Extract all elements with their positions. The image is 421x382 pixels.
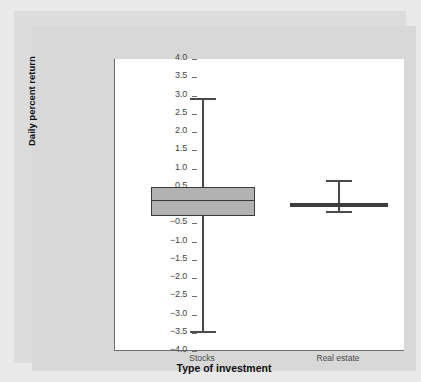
y-axis-title: Daily percent return (26, 56, 37, 146)
plot-area: 4.03.53.02.52.01.51.00.50.0−0.5−1.0−1.5−… (114, 59, 404, 351)
x-axis-title: Type of investment (32, 362, 416, 374)
boxplot-real-estate (115, 59, 405, 351)
iqr-box (290, 203, 388, 208)
y-tick-mark (192, 351, 197, 352)
figure-page: Daily percent return 4.03.53.02.52.01.51… (14, 11, 406, 363)
figure-container: Daily percent return 4.03.53.02.52.01.51… (0, 0, 421, 382)
upper-whisker-cap (326, 180, 352, 181)
upper-whisker-line (338, 180, 339, 204)
lower-whisker-cap (326, 211, 352, 212)
chart-card: Daily percent return 4.03.53.02.52.01.51… (32, 26, 416, 371)
